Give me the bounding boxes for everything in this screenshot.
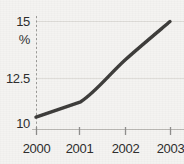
data-line-series xyxy=(36,22,170,118)
x-axis-ticks xyxy=(37,127,171,135)
chart-container: 15 % 12.5 10 2000 2001 2002 2003 xyxy=(0,0,184,164)
chart-plot-area xyxy=(0,0,184,164)
